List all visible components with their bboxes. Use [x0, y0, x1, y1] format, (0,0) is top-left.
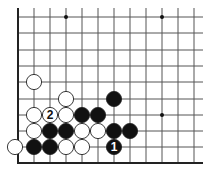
- white-stone: [7, 139, 22, 154]
- white-stone: [26, 107, 41, 122]
- star-point: [160, 15, 164, 19]
- white-stone: [58, 107, 73, 122]
- white-stone: [58, 139, 73, 154]
- move-number-label: 2: [47, 108, 54, 122]
- black-stone: 1: [106, 139, 121, 154]
- white-stone: [74, 139, 89, 154]
- white-stone: [74, 123, 89, 138]
- black-stone: [42, 123, 57, 138]
- black-stone: [42, 139, 57, 154]
- black-stone: [58, 123, 73, 138]
- white-stone: [26, 74, 41, 89]
- star-point: [160, 113, 164, 117]
- black-stone: [26, 139, 41, 154]
- white-stone: [58, 91, 73, 106]
- star-point: [64, 15, 68, 19]
- black-stone: [90, 107, 105, 122]
- white-stone: [90, 123, 105, 138]
- black-stone: [122, 123, 137, 138]
- go-board: 21: [0, 0, 212, 177]
- white-stone: 2: [42, 107, 57, 122]
- white-stone: [26, 123, 41, 138]
- black-stone: [74, 107, 89, 122]
- black-stone: [106, 123, 121, 138]
- black-stone: [106, 91, 121, 106]
- move-number-label: 1: [111, 140, 118, 154]
